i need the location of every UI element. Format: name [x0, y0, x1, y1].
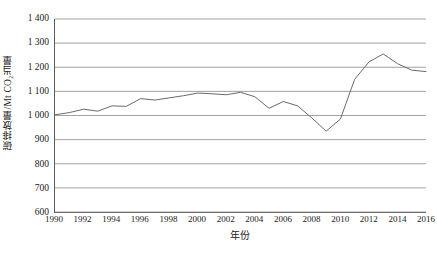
- x-axis-tick-labels: 1990199219941996199820002002200420062008…: [54, 215, 426, 229]
- x-tick-label: 2002: [217, 215, 235, 224]
- y-axis-tick-labels: 6007008009001 0001 1001 2001 3001 400: [16, 0, 52, 213]
- plot-area: [54, 19, 426, 213]
- x-tick-label: 2012: [360, 215, 378, 224]
- x-tick-label: 2000: [188, 215, 206, 224]
- y-tick-label: 1 100: [28, 87, 49, 97]
- x-tick-label: 1994: [102, 215, 120, 224]
- x-tick-label: 2008: [303, 215, 321, 224]
- y-tick-label: 700: [35, 184, 49, 194]
- x-tick-label: 1992: [74, 215, 92, 224]
- x-tick-label: 1990: [45, 215, 63, 224]
- y-tick-label: 1 300: [28, 39, 49, 49]
- x-axis-title: 年份: [54, 231, 426, 241]
- x-tick-label: 1996: [131, 215, 149, 224]
- data-line: [55, 54, 426, 131]
- y-tick-label: 1 400: [28, 14, 49, 24]
- x-tick-label: 2006: [274, 215, 292, 224]
- x-tick-label: 2014: [388, 215, 406, 224]
- y-tick-label: 800: [35, 160, 49, 170]
- data-series-group: [55, 54, 426, 131]
- y-tick-label: 900: [35, 136, 49, 146]
- gridlines: [55, 19, 426, 212]
- x-tick-label: 2016: [417, 215, 435, 224]
- x-tick-label: 2004: [245, 215, 263, 224]
- y-axis-title-text: 碳排放量/Mt CO₂当量: [4, 55, 14, 150]
- plot-svg: [55, 19, 426, 212]
- y-tick-label: 1 000: [28, 111, 49, 121]
- line-chart: 碳排放量/Mt CO₂当量 6007008009001 0001 1001 20…: [0, 0, 437, 255]
- y-tick-label: 1 200: [28, 63, 49, 73]
- x-tick-label: 1998: [159, 215, 177, 224]
- x-tick-label: 2010: [331, 215, 349, 224]
